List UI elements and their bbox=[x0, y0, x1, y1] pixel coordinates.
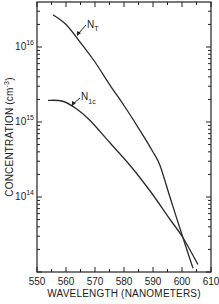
y-tick-labels: 101610151014 bbox=[15, 39, 34, 202]
series-label-nt: NT bbox=[77, 19, 99, 36]
series-label-n1c: N1c bbox=[72, 91, 96, 106]
x-tick-label: 610 bbox=[203, 276, 219, 287]
curve-n1c bbox=[48, 100, 198, 264]
y-tick-label: 1015 bbox=[15, 114, 34, 127]
curve-nt bbox=[53, 15, 193, 268]
svg-text:NT: NT bbox=[87, 19, 99, 32]
x-tick-label: 590 bbox=[145, 276, 162, 287]
y-tick-label: 1014 bbox=[15, 189, 34, 202]
x-tick-labels: 550560570580590600610 bbox=[29, 276, 219, 287]
data-curves bbox=[48, 15, 198, 268]
plot-frame bbox=[37, 2, 211, 272]
x-axis-label: WAVELENGTH (NANOMETERS) bbox=[47, 288, 201, 299]
axis-ticks bbox=[37, 2, 211, 272]
svg-text:N1c: N1c bbox=[81, 91, 96, 105]
x-tick-label: 570 bbox=[87, 276, 104, 287]
x-tick-label: 600 bbox=[174, 276, 191, 287]
x-tick-label: 560 bbox=[58, 276, 75, 287]
concentration-vs-wavelength-chart: 550560570580590600610 101610151014 WAVEL… bbox=[0, 0, 219, 304]
y-tick-label: 1016 bbox=[15, 39, 34, 52]
x-tick-label: 580 bbox=[116, 276, 133, 287]
y-axis-label: CONCENTRATION (cm-3) bbox=[3, 77, 15, 196]
x-tick-label: 550 bbox=[29, 276, 46, 287]
